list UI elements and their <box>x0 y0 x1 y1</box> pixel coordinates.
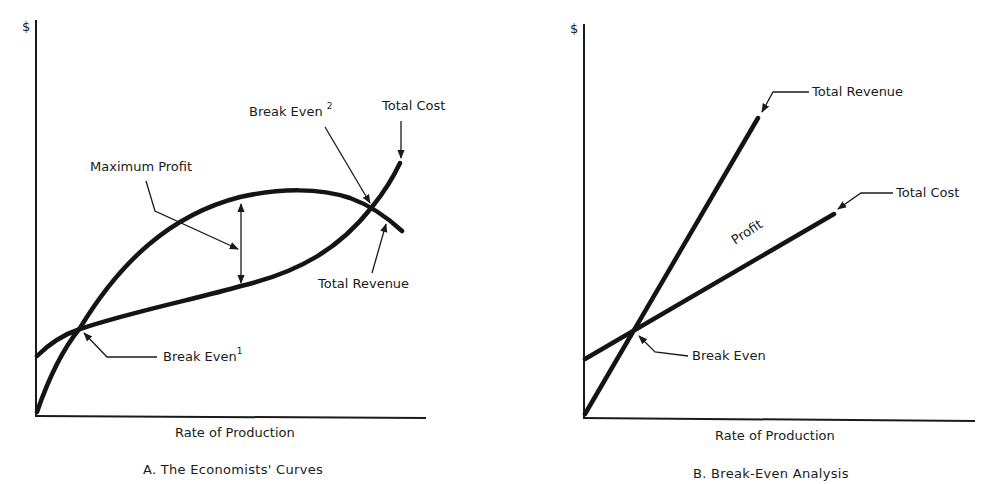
chart-b-total-cost-leader <box>838 193 893 209</box>
chart-a-x-axis <box>35 416 426 418</box>
chart-b-caption: B. Break-Even Analysis <box>693 466 849 481</box>
chart-b-total-cost-line <box>585 214 834 359</box>
chart-b-break-even-label: Break Even <box>692 348 766 363</box>
chart-b-y-axis-label: $ <box>570 21 578 36</box>
chart-a: $ Maximum Profit Break Even1 Break Even2… <box>22 19 445 477</box>
chart-a-caption: A. The Economists' Curves <box>143 462 323 477</box>
chart-b-total-revenue-label: Total Revenue <box>811 84 903 99</box>
chart-b-total-revenue-line <box>585 118 758 414</box>
figure-canvas: $ Maximum Profit Break Even1 Break Even2… <box>0 0 981 484</box>
chart-a-total-cost-label: Total Cost <box>381 98 445 113</box>
chart-a-maximum-profit-label: Maximum Profit <box>90 159 192 174</box>
chart-a-x-axis-label: Rate of Production <box>175 425 295 440</box>
chart-a-break-even-2-label: Break Even2 <box>249 101 332 119</box>
chart-a-total-revenue-label: Total Revenue <box>317 276 409 291</box>
chart-b-break-even-leader <box>639 336 688 356</box>
chart-a-total-revenue-curve <box>37 190 402 412</box>
chart-b-x-axis-label: Rate of Production <box>715 428 835 443</box>
chart-a-break-even-1-leader <box>84 333 157 357</box>
chart-b-total-revenue-leader <box>762 92 809 112</box>
chart-b-profit-label: Profit <box>728 216 765 247</box>
chart-a-break-even-1-label: Break Even1 <box>163 346 242 364</box>
chart-b-x-axis <box>583 418 975 421</box>
chart-b: $ Total Revenue Total Cost Profit Break … <box>570 21 975 481</box>
chart-a-total-revenue-arrow <box>372 224 386 273</box>
chart-a-y-axis-label: $ <box>22 19 30 34</box>
chart-b-total-cost-label: Total Cost <box>895 185 959 200</box>
chart-a-total-cost-curve <box>37 163 400 356</box>
